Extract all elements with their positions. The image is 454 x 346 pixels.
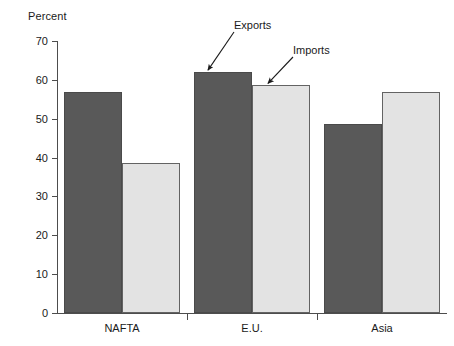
- plot-area: 010203040506070 NAFTAE.U.Asia: [0, 0, 454, 346]
- y-tick-label: 30: [8, 190, 48, 202]
- bar-imports-asia: [382, 92, 440, 313]
- x-tick-label: Asia: [371, 322, 392, 334]
- x-axis-line: [57, 313, 447, 314]
- y-tick: [52, 274, 58, 275]
- bar-exports-asia: [324, 124, 382, 313]
- bar-exports-eu: [194, 72, 252, 313]
- y-tick-label: 70: [8, 35, 48, 47]
- bar-imports-nafta: [122, 163, 180, 313]
- x-tick-label: NAFTA: [104, 322, 139, 334]
- y-tick: [52, 41, 58, 42]
- bar-imports-eu: [252, 85, 310, 313]
- annotation-label-imports: Imports: [293, 44, 330, 56]
- y-tick-label: 20: [8, 229, 48, 241]
- y-tick: [52, 80, 58, 81]
- annotation-label-exports: Exports: [234, 19, 271, 31]
- y-tick: [52, 196, 58, 197]
- y-axis-line: [57, 41, 58, 314]
- x-tick-label: E.U.: [241, 322, 262, 334]
- y-tick-label: 0: [8, 307, 48, 319]
- y-tick-label: 10: [8, 268, 48, 280]
- y-tick-label: 60: [8, 74, 48, 86]
- y-tick-label: 40: [8, 152, 48, 164]
- y-tick: [52, 313, 58, 314]
- bar-exports-nafta: [64, 92, 122, 313]
- y-tick-label: 50: [8, 113, 48, 125]
- bar-chart: Percent 010203040506070 NAFTAE.U.Asia Ex…: [0, 0, 454, 346]
- y-tick: [52, 235, 58, 236]
- x-tick: [317, 314, 318, 320]
- x-tick: [187, 314, 188, 320]
- y-tick: [52, 119, 58, 120]
- y-tick: [52, 158, 58, 159]
